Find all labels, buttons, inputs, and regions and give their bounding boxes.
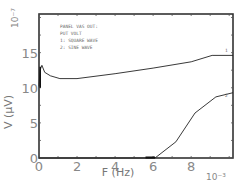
series-line-2 [39,93,233,158]
x-axis-label: F (Hz) [102,166,134,179]
series-lines: 12 [39,48,233,158]
x-tick-label: 6 [149,159,157,174]
y-tick-label: 15 [21,46,38,61]
legend-entry: 2: SINE WAVE [60,45,93,50]
series-marker-label: 2 [225,93,228,98]
y-tick-label: 0 [30,151,38,166]
x-tick-label: 8 [187,159,195,174]
y-axis-label: V (μV) [2,95,15,129]
x-multiplier: 10⁻³ [206,172,226,182]
line-chart: 02468051015 12 F (Hz)V (μV)10⁻³10⁻⁷ PANE… [0,0,244,188]
series-marker-label: 1 [225,48,228,53]
axis-ticks: 02468051015 [21,14,233,174]
legend-entry: PUT VOLT [60,31,82,36]
legend-entry: PANEL VAS OUT: [60,24,98,29]
y-tick-label: 5 [30,116,38,131]
legend: PANEL VAS OUT:PUT VOLT1: SQUARE WAVE2: S… [60,24,98,50]
x-tick-label: 2 [73,159,81,174]
legend-entry: 1: SQUARE WAVE [60,38,98,43]
y-tick-label: 10 [21,81,38,96]
y-multiplier: 10⁻⁷ [10,8,20,28]
series-line-1 [39,55,233,86]
